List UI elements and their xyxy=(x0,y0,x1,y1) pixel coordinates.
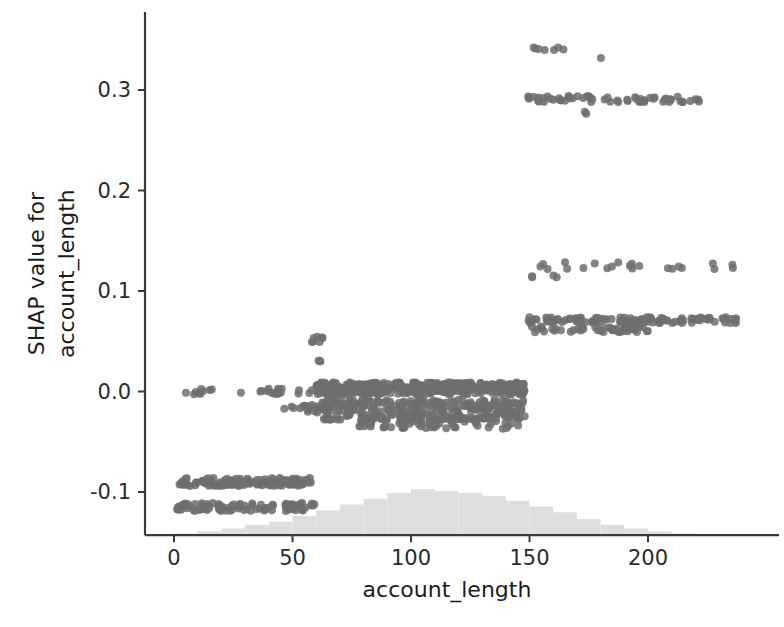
scatter-point xyxy=(450,387,458,395)
scatter-point xyxy=(676,97,684,105)
scatter-point xyxy=(519,382,527,390)
histogram-bar xyxy=(482,496,506,535)
scatter-point xyxy=(235,505,243,513)
scatter-point xyxy=(608,315,616,323)
scatter-point xyxy=(418,419,426,427)
scatter-point xyxy=(470,416,478,424)
scatter-point xyxy=(623,96,631,104)
scatter-point xyxy=(627,322,635,330)
histogram-bar xyxy=(530,506,554,535)
scatter-point xyxy=(514,421,522,429)
y-tick-label: 0.2 xyxy=(98,179,131,203)
scatter-point xyxy=(394,390,402,398)
scatter-point xyxy=(214,502,222,510)
scatter-point xyxy=(195,506,203,514)
scatter-point xyxy=(264,504,272,512)
scatter-point xyxy=(235,482,243,490)
histogram-bar xyxy=(340,505,364,536)
scatter-point xyxy=(323,415,331,423)
scatter-point xyxy=(290,404,298,412)
scatter-point xyxy=(475,388,483,396)
scatter-point xyxy=(608,262,616,270)
scatter-point xyxy=(461,414,469,422)
shap-dependence-figure: -0.10.00.10.20.3 050100150200 account_le… xyxy=(0,0,784,627)
y-axis-title-line-2: account_length xyxy=(54,189,80,358)
scatter-point xyxy=(318,334,326,342)
scatter-point xyxy=(303,476,311,484)
scatter-point xyxy=(431,420,439,428)
x-tick-label: 200 xyxy=(628,546,668,570)
scatter-point xyxy=(315,357,323,365)
histogram-bar xyxy=(316,510,340,535)
scatter-point xyxy=(369,405,377,413)
scatter-point xyxy=(647,314,655,322)
scatter-point xyxy=(259,478,267,486)
scatter-point xyxy=(563,265,571,273)
scatter-point xyxy=(343,411,351,419)
scatter-point xyxy=(544,265,552,273)
scatter-point xyxy=(364,388,372,396)
scatter-point xyxy=(665,98,673,106)
histogram-bar xyxy=(601,525,625,536)
histogram-bar xyxy=(269,522,293,535)
scatter-point xyxy=(525,95,533,103)
scatter-point xyxy=(528,272,536,280)
scatter-point xyxy=(442,424,450,432)
scatter-point xyxy=(597,327,605,335)
y-tick-label: 0.1 xyxy=(98,279,131,303)
scatter-point xyxy=(304,406,312,414)
scatter-point xyxy=(591,260,599,268)
scatter-point xyxy=(343,400,351,408)
scatter-point xyxy=(531,328,539,336)
scatter-point xyxy=(588,95,596,103)
scatter-point xyxy=(288,502,296,510)
scatter-point xyxy=(401,423,409,431)
scatter-point xyxy=(481,414,489,422)
scatter-point xyxy=(679,317,687,325)
scatter-point xyxy=(329,379,337,387)
scatter-point xyxy=(632,95,640,103)
scatter-point xyxy=(396,379,404,387)
histogram-bar xyxy=(364,499,388,535)
scatter-point xyxy=(580,264,588,272)
scatter-point xyxy=(597,54,605,62)
scatter-point xyxy=(256,388,264,396)
scatter-point xyxy=(557,326,565,334)
scatter-point xyxy=(430,383,438,391)
scatter-point xyxy=(323,398,331,406)
scatter-point xyxy=(289,475,297,483)
x-axis-title: account_length xyxy=(363,577,532,603)
scatter-point xyxy=(553,273,561,281)
scatter-point xyxy=(535,45,543,53)
scatter-point xyxy=(611,326,619,334)
scatter-point xyxy=(227,507,235,515)
scatter-point xyxy=(297,504,305,512)
scatter-point xyxy=(305,389,313,397)
y-tick-label: 0.0 xyxy=(98,380,131,404)
scatter-point xyxy=(559,45,567,53)
scatter-point xyxy=(175,503,183,511)
scatter-point xyxy=(438,408,446,416)
scatter-point xyxy=(396,402,404,410)
scatter-point xyxy=(275,481,283,489)
scatter-point xyxy=(578,323,586,331)
scatter-point xyxy=(447,397,455,405)
scatter-point xyxy=(550,317,558,325)
scatter-point xyxy=(406,397,414,405)
scatter-point xyxy=(360,402,368,410)
scatter-point xyxy=(482,405,490,413)
scatter-plot-canvas: -0.10.00.10.20.3 050100150200 account_le… xyxy=(0,0,784,627)
x-tick-label: 50 xyxy=(279,546,306,570)
scatter-point xyxy=(628,265,636,273)
scatter-point xyxy=(333,411,341,419)
scatter-point xyxy=(483,381,491,389)
scatter-point xyxy=(327,386,335,394)
scatter-point xyxy=(728,261,736,269)
scatter-point xyxy=(479,396,487,404)
scatter-point xyxy=(334,399,342,407)
x-tick-label: 0 xyxy=(167,546,180,570)
scatter-point xyxy=(604,93,612,101)
scatter-point xyxy=(534,97,542,105)
scatter-point xyxy=(490,398,498,406)
histogram-bar xyxy=(387,493,411,535)
